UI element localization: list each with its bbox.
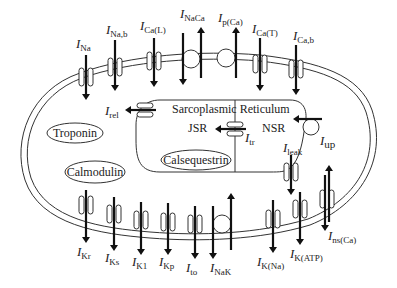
pump-inak: INaK <box>209 196 232 277</box>
label-ikp: IKp <box>158 254 175 271</box>
calmodulin-label: Calmodulin <box>67 165 124 179</box>
sr-label: Sarcoplasmic Reticulum <box>172 102 290 116</box>
channel-irel: Irel <box>104 103 156 120</box>
channel-iks: IKs <box>104 197 121 267</box>
label-ina: INa <box>75 36 91 53</box>
label-inaca: INaCa <box>179 6 205 23</box>
label-ikatp: IK(ATP) <box>289 246 323 263</box>
label-ikr: IKr <box>76 244 91 261</box>
channel-ikatp: IK(ATP) <box>289 192 323 263</box>
channel-inab: INa,b <box>105 22 128 88</box>
label-icab: ICa,b <box>292 28 315 45</box>
label-insca: Ins(Ca) <box>327 228 356 245</box>
label-icat: ICa(T) <box>251 21 278 38</box>
label-irel: Irel <box>104 103 119 120</box>
channel-itr: Itr <box>218 122 255 147</box>
exchanger-inaca: INaCa <box>179 6 205 82</box>
channel-ina: INa <box>75 36 93 97</box>
calsequestrin-label: Calsequestrin <box>163 153 228 167</box>
label-ik1: IK1 <box>131 254 147 271</box>
label-inak: INaK <box>209 260 232 277</box>
label-ical: ICa(L) <box>139 18 166 35</box>
channel-ikp: IKp <box>158 203 175 271</box>
channel-icab: ICa,b <box>289 28 315 92</box>
nsr-label: NSR <box>262 121 285 135</box>
troponin-label: Troponin <box>53 126 97 140</box>
label-iup: Iup <box>319 133 336 150</box>
buffer-calmodulin: Calmodulin <box>65 161 125 183</box>
label-iks: IKs <box>104 250 120 267</box>
label-itr: Itr <box>244 130 255 147</box>
label-ikna: IK(Na) <box>256 254 284 271</box>
channel-ical: ICa(L) <box>139 18 166 84</box>
jsr-label: JSR <box>188 121 207 135</box>
buffer-calsequestrin: Calsequestrin <box>161 150 231 170</box>
label-ito: Ito <box>185 260 198 277</box>
pump-ipca: Ip(Ca) <box>217 10 243 78</box>
channel-ito: Ito <box>185 206 202 277</box>
myocyte-diagram: Sarcoplasmic Reticulum JSR NSR Troponin … <box>0 0 397 288</box>
label-ileak: Ileak <box>282 140 303 157</box>
label-inab: INa,b <box>105 22 128 39</box>
buffer-troponin: Troponin <box>47 123 103 143</box>
label-ipca: Ip(Ca) <box>217 10 243 27</box>
channel-insca: Ins(Ca) <box>320 168 356 245</box>
